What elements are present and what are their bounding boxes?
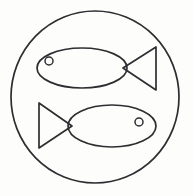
fish-top-eye-icon — [45, 57, 53, 65]
figure-canvas: Two fish in a circle — [0, 0, 193, 196]
two-fish-in-circle-drawing — [0, 0, 193, 196]
fish-bottom-tail-icon — [39, 103, 72, 148]
fish-top-tail-icon — [123, 47, 156, 90]
outer-circle — [11, 11, 179, 183]
fish-top — [37, 47, 156, 90]
fish-bottom — [39, 103, 156, 148]
fish-bottom-eye-icon — [135, 118, 143, 126]
fish-bottom-body — [68, 105, 156, 147]
fish-top-body — [37, 48, 127, 88]
